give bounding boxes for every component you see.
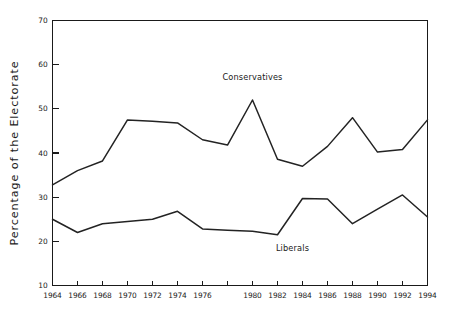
y-tick-label: 30 xyxy=(38,193,48,202)
y-tick-label: 40 xyxy=(38,149,48,158)
x-tick-label: 1984 xyxy=(293,291,312,300)
x-tick-label: 1994 xyxy=(418,291,437,300)
y-axis-tick-labels: 10203040506070 xyxy=(38,16,48,290)
x-tick-label: 1966 xyxy=(68,291,87,300)
x-tick-label: 1976 xyxy=(193,291,212,300)
y-axis-title-text: Percentage of the Electorate xyxy=(8,60,21,245)
line-chart: 10203040506070 1964196619681970197219741… xyxy=(0,0,450,323)
axes xyxy=(53,21,428,286)
chart-canvas: 10203040506070 1964196619681970197219741… xyxy=(0,0,450,323)
x-tick-label: 1970 xyxy=(118,291,137,300)
x-tick-label: 1982 xyxy=(268,291,286,300)
x-axis-tick-labels: 1964196619681970197219741976198019821984… xyxy=(43,291,437,300)
x-tick-label: 1972 xyxy=(143,291,161,300)
x-tick-label: 1992 xyxy=(393,291,411,300)
x-tick-label: 1988 xyxy=(343,291,362,300)
x-tick-label: 1986 xyxy=(318,291,337,300)
series-line-liberals xyxy=(53,195,428,235)
series-annotations: ConservativesLiberals xyxy=(222,72,309,253)
y-tick-label: 70 xyxy=(38,16,48,25)
y-axis-title: Percentage of the Electorate xyxy=(8,60,21,245)
x-tick-label: 1974 xyxy=(168,291,187,300)
series-label-liberals: Liberals xyxy=(276,243,309,253)
y-tick-label: 60 xyxy=(38,60,48,69)
series-label-conservatives: Conservatives xyxy=(222,72,282,82)
series-line-conservatives xyxy=(53,100,428,185)
y-tick-label: 10 xyxy=(38,281,48,290)
x-tick-label: 1980 xyxy=(243,291,262,300)
data-series xyxy=(53,100,428,235)
y-tick-label: 20 xyxy=(38,237,48,246)
x-tick-label: 1964 xyxy=(43,291,62,300)
tick-marks xyxy=(53,65,428,286)
x-tick-label: 1968 xyxy=(93,291,112,300)
y-tick-label: 50 xyxy=(38,104,48,113)
x-tick-label: 1990 xyxy=(368,291,387,300)
